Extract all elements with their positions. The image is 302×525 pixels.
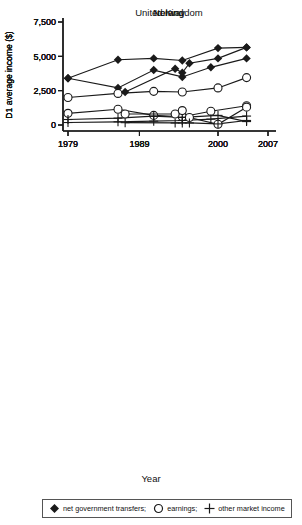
- series-line-diamond: [125, 47, 246, 92]
- circle-marker: [178, 107, 186, 115]
- y-axis-label: D1 average income ($): [4, 31, 14, 119]
- chart-ireland: Ireland D1 average income ($) 02,5005,00…: [0, 0, 302, 163]
- chart-title: Ireland: [154, 7, 183, 18]
- plus-marker-icon: [204, 503, 215, 514]
- diamond-marker: [178, 69, 186, 77]
- y-tick-label: 0: [51, 120, 56, 130]
- circle-marker-icon: [153, 503, 164, 514]
- legend-label: net government transfers;: [63, 504, 146, 513]
- legend-label: earnings;: [167, 504, 197, 513]
- legend-label: other market income: [218, 504, 285, 513]
- plus-marker: [121, 118, 130, 127]
- legend-item-net-government-transfers: net government transfers;: [49, 503, 146, 514]
- circle-marker: [121, 110, 129, 118]
- x-tick-label: 1979: [58, 139, 78, 149]
- y-tick-label: 5,000: [33, 52, 56, 62]
- diamond-marker: [171, 64, 179, 72]
- diamond-marker-icon: [49, 503, 60, 514]
- circle-marker: [243, 103, 251, 111]
- diamond-marker: [121, 88, 129, 96]
- x-tick-label: 2007: [258, 139, 278, 149]
- legend-item-earnings: earnings;: [153, 503, 197, 514]
- figure-panel: United Kingdom D1 average income ($) 02,…: [0, 0, 302, 525]
- y-tick-label: 2,500: [33, 86, 56, 96]
- diamond-marker: [214, 54, 222, 62]
- x-axis-label: Year: [0, 473, 302, 484]
- diamond-marker: [185, 59, 193, 67]
- diamond-marker: [242, 43, 250, 51]
- legend: net government transfers; earnings; othe…: [42, 499, 292, 518]
- legend-item-other-market-income: other market income: [204, 503, 285, 514]
- plus-marker: [242, 116, 251, 125]
- y-tick-label: 7,500: [33, 17, 56, 27]
- chart-ireland-plot: Ireland D1 average income ($) 02,5005,00…: [0, 0, 302, 163]
- x-tick-label: 2000: [208, 139, 228, 149]
- x-tick-label: 1989: [129, 139, 149, 149]
